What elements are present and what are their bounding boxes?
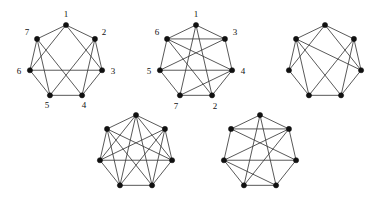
vertex-label: 3 [111,66,116,76]
graph-vertex [104,126,109,131]
vertex-label: 5 [45,100,50,110]
graph-vertex [209,93,214,98]
vertex-label: 3 [233,27,238,37]
vertex-label: 4 [241,66,246,76]
graph-vertex [221,158,226,163]
graph-vertex [228,126,233,131]
graph-vertex [358,68,363,73]
vertex-label: 2 [102,27,107,37]
graph-vertex [97,158,102,163]
graph-vertex [157,68,162,73]
graph-vertex [293,158,298,163]
graph-vertex [117,183,122,188]
vertex-label: 1 [64,9,69,19]
graph-vertex [79,93,84,98]
vertex-label: 6 [155,27,160,37]
graph-vertex [47,93,52,98]
graph-vertex [164,36,169,41]
graph-vertex [241,183,246,188]
graph-vertex [92,36,97,41]
graph-vertex [162,126,167,131]
graph-vertex [133,112,138,117]
vertex-label: 2 [213,101,218,111]
seven-vertex-graphs-figure: 12345671342756 [0,0,389,208]
graph-vertex [222,36,227,41]
graph-vertex [229,68,234,73]
graph-vertex [273,183,278,188]
graph-vertex [286,126,291,131]
vertex-label: 7 [174,101,179,111]
vertex-label: 7 [25,27,30,37]
graph-vertex [99,68,104,73]
graph-vertex [351,36,356,41]
graph-vertex [293,36,298,41]
graph-vertex [169,158,174,163]
graph-vertex [27,68,32,73]
vertex-label: 1 [194,9,199,19]
graph-vertex [177,93,182,98]
vertex-label: 4 [82,100,87,110]
graph-vertex [338,93,343,98]
graph-vertex [286,68,291,73]
graph-vertex [193,22,198,27]
vertex-label: 5 [147,66,152,76]
graph-vertex [322,22,327,27]
graph-vertex [149,183,154,188]
graph-vertex [34,36,39,41]
graph-vertex [306,93,311,98]
vertex-label: 6 [17,66,22,76]
graph-vertex [257,112,262,117]
graph-vertex [63,22,68,27]
